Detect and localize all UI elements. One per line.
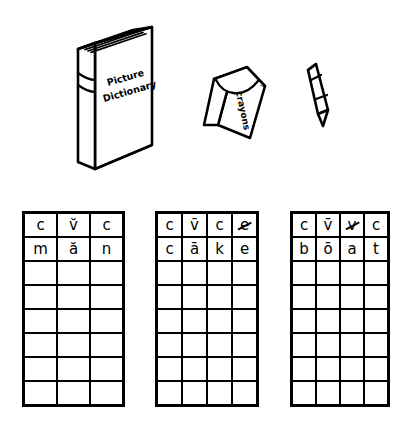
grid-cell[interactable] (232, 309, 258, 333)
grid-cell[interactable] (24, 381, 58, 406)
grid-cell[interactable] (292, 333, 317, 357)
grid-cell[interactable] (232, 261, 258, 285)
grid-cell[interactable] (57, 357, 90, 381)
cell-blank (244, 384, 245, 403)
grid-cell[interactable] (340, 357, 364, 381)
grid-cell[interactable] (157, 333, 183, 357)
grid-cell[interactable] (157, 357, 183, 381)
grid-cell[interactable] (90, 333, 124, 357)
grid-cell[interactable] (57, 261, 90, 285)
grid-cell[interactable] (292, 381, 317, 406)
grid-cell[interactable]: v̄ (182, 213, 207, 238)
grid-cell[interactable]: ă (57, 237, 90, 261)
grid-cell[interactable]: c (292, 213, 317, 238)
grid-cell[interactable] (182, 381, 207, 406)
grid-cell[interactable] (90, 261, 124, 285)
grid-cell[interactable] (364, 309, 389, 333)
grid-cell[interactable]: c (157, 237, 183, 261)
grid-cell[interactable] (292, 261, 317, 285)
grid-cell[interactable] (340, 333, 364, 357)
grid-cell[interactable] (182, 261, 207, 285)
grid-cell[interactable]: v (340, 213, 364, 238)
grid-cell[interactable] (364, 261, 389, 285)
grid-cell[interactable]: c (207, 213, 232, 238)
grid-cell[interactable] (232, 381, 258, 406)
grid-cell[interactable]: ā (182, 237, 207, 261)
grid-cell[interactable] (157, 309, 183, 333)
grid-cell[interactable] (24, 261, 58, 285)
grid-cell[interactable] (292, 309, 317, 333)
grid-cell[interactable] (57, 285, 90, 309)
grid-cell[interactable] (207, 309, 232, 333)
grid-cell[interactable] (24, 309, 58, 333)
grid-cell[interactable]: v̆ (57, 213, 90, 238)
grid-cell[interactable] (90, 285, 124, 309)
grid-cell[interactable] (364, 333, 389, 357)
grid-cell[interactable]: c (364, 213, 389, 238)
grid-cell[interactable]: t (364, 237, 389, 261)
grid-cell[interactable] (182, 309, 207, 333)
grid-cell[interactable] (364, 357, 389, 381)
grid-cell[interactable] (157, 381, 183, 406)
grid-cell[interactable] (207, 357, 232, 381)
grid-cell[interactable] (24, 333, 58, 357)
grid-cell[interactable] (90, 357, 124, 381)
grid-cell[interactable] (232, 357, 258, 381)
grid-cell[interactable] (182, 333, 207, 357)
grid-cell[interactable]: m (24, 237, 58, 261)
grid-cell[interactable]: k (207, 237, 232, 261)
grid-cell[interactable] (90, 309, 124, 333)
grid-cell[interactable] (90, 381, 124, 406)
grid-cell[interactable]: c (24, 213, 58, 238)
grid-cell[interactable] (157, 285, 183, 309)
grid-cell[interactable] (364, 285, 389, 309)
cell-blank (376, 384, 377, 403)
grid-cell[interactable] (340, 309, 364, 333)
grid-cell[interactable]: e (232, 237, 258, 261)
grid-cell[interactable] (316, 381, 340, 406)
grid-cell[interactable] (182, 285, 207, 309)
grid-cell[interactable] (232, 333, 258, 357)
grid-cell[interactable] (207, 285, 232, 309)
grid-cell[interactable] (316, 261, 340, 285)
grid-cvce-cake[interactable]: cv̄cecāke (155, 211, 259, 407)
cell-blank (194, 360, 195, 379)
grid-cell[interactable]: ō (316, 237, 340, 261)
grid-cell[interactable] (232, 285, 258, 309)
grid-cell[interactable]: c (90, 213, 124, 238)
grid-cell[interactable]: b (292, 237, 317, 261)
grid-cell[interactable] (57, 309, 90, 333)
grid-cell[interactable] (316, 333, 340, 357)
grid-cell[interactable] (292, 357, 317, 381)
grid-cell[interactable] (316, 309, 340, 333)
cell-letter: e (240, 242, 249, 257)
grid-cell[interactable] (57, 333, 90, 357)
grid-cell[interactable]: n (90, 237, 124, 261)
cell-blank (304, 288, 305, 307)
grid-cell[interactable] (207, 333, 232, 357)
grid-cell[interactable] (316, 285, 340, 309)
grid-cvc-man[interactable]: cv̆cmăn (22, 211, 125, 407)
blank-row (157, 381, 258, 406)
grid-cell[interactable]: v̄ (316, 213, 340, 238)
grid-cell[interactable] (340, 381, 364, 406)
grid-cell[interactable] (340, 261, 364, 285)
grid-cell[interactable] (364, 381, 389, 406)
grid-cell[interactable] (340, 285, 364, 309)
grid-cell[interactable] (57, 381, 90, 406)
grid-cell[interactable]: c (157, 213, 183, 238)
blank-row (24, 333, 124, 357)
grid-cell[interactable] (292, 285, 317, 309)
grid-cell[interactable] (316, 357, 340, 381)
grid-cell[interactable] (207, 381, 232, 406)
grid-cell[interactable] (207, 261, 232, 285)
grid-cell[interactable] (24, 285, 58, 309)
grid-cell[interactable]: e (232, 213, 258, 238)
grid-cell[interactable] (182, 357, 207, 381)
blank-row (292, 309, 389, 333)
grid-cell[interactable]: a (340, 237, 364, 261)
grid-cell[interactable] (24, 357, 58, 381)
grid-cell[interactable] (157, 261, 183, 285)
grid-cvvc-boat[interactable]: cv̄vcbōat (290, 211, 390, 407)
cell-blank (352, 312, 353, 331)
